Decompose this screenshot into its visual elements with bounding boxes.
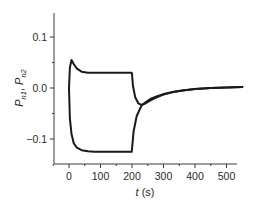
x-axis: 0100200300400500 (53, 164, 237, 182)
y-tick-label: 0.1 (32, 31, 47, 43)
y-tick-label: −0.1 (26, 133, 47, 145)
plot-area (69, 60, 242, 152)
x-tick-label: 0 (66, 170, 72, 182)
x-tick-label: 200 (123, 170, 141, 182)
series-layer (69, 60, 242, 152)
y-axis: 0.10.0−0.1 (26, 13, 54, 164)
x-tick-label: 400 (186, 170, 204, 182)
series-line-p-n1 (69, 60, 242, 105)
y-axis-label: Pn1, Pn2 (13, 68, 28, 106)
y-tick-label: 0.0 (32, 82, 47, 94)
x-tick-label: 500 (218, 170, 236, 182)
x-tick-label: 100 (92, 170, 110, 182)
x-ticks: 0100200300400500 (53, 164, 235, 182)
x-tick-label: 300 (155, 170, 173, 182)
y-ticks: 0.10.0−0.1 (26, 31, 54, 145)
line-chart: 0.10.0−0.1 0100200300400500 t (s) Pn1, P… (0, 0, 257, 206)
series-line-p-n2 (69, 87, 242, 152)
x-axis-label: t (s) (136, 186, 155, 198)
